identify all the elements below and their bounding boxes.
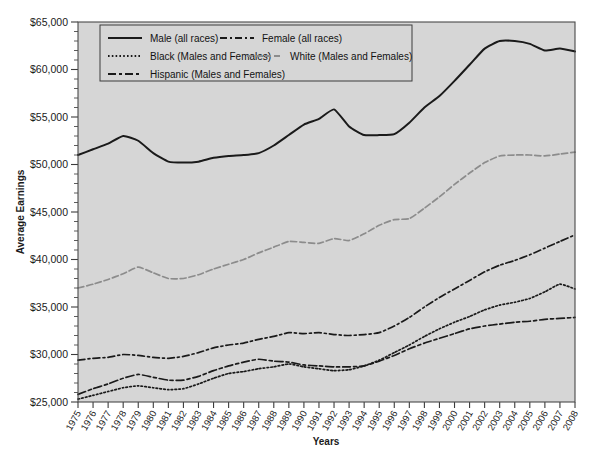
- y-tick-label: $55,000: [30, 111, 68, 123]
- legend-label: Hispanic (Males and Females): [150, 69, 285, 80]
- legend-label: White (Males and Females): [290, 51, 412, 62]
- legend-label: Female (all races): [262, 33, 342, 44]
- x-axis-title: Years: [313, 436, 340, 447]
- y-axis-title: Average Earnings: [15, 169, 26, 254]
- y-tick-label: $25,000: [30, 396, 68, 408]
- x-tick-label: 2008: [560, 409, 580, 433]
- legend-label: Male (all races): [150, 33, 218, 44]
- y-axis-ticks: $65,000$60,000$55,000$50,000$45,000$40,0…: [30, 16, 78, 408]
- y-tick-label: $60,000: [30, 63, 68, 75]
- y-tick-label: $50,000: [30, 158, 68, 170]
- x-axis-ticks: 1975197619771978197919801981198219831984…: [63, 402, 580, 432]
- earnings-line-chart: Average Earnings Years $65,000$60,000$55…: [0, 0, 590, 458]
- y-tick-label: $45,000: [30, 206, 68, 218]
- y-tick-label: $65,000: [30, 16, 68, 28]
- chart-legend: Male (all races)Female (all races)Black …: [100, 25, 412, 81]
- y-tick-label: $30,000: [30, 348, 68, 360]
- y-tick-label: $40,000: [30, 253, 68, 265]
- y-tick-label: $35,000: [30, 301, 68, 313]
